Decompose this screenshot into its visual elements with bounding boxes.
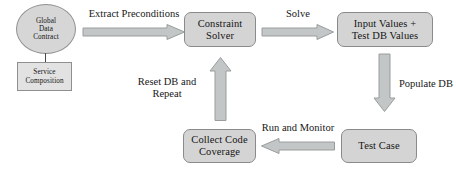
diagram-canvas: Global Data Contract Service Composition… (0, 0, 456, 173)
node-global-data-contract-label: Global Data Contract (33, 17, 59, 41)
edge-label-populate-db: Populate DB (399, 78, 456, 90)
edge-label-reset-db-and-repeat: Reset DB and Repeat (128, 76, 206, 100)
node-service-composition[interactable]: Service Composition (17, 62, 72, 91)
edge-label-run-and-monitor: Run and Monitor (258, 122, 338, 134)
edge-label-extract-preconditions: Extract Preconditions (72, 8, 196, 20)
node-service-composition-label: Service Composition (25, 68, 63, 84)
edge-label-solve: Solve (264, 8, 332, 20)
node-constraint-solver[interactable]: Constraint Solver (184, 12, 256, 47)
arrow-run-and-monitor (261, 138, 335, 154)
node-input-values[interactable]: Input Values + Test DB Values (337, 12, 433, 47)
node-collect-code-coverage-label: Collect Code Coverage (191, 134, 247, 158)
node-constraint-solver-label: Constraint Solver (198, 18, 243, 42)
node-global-data-contract[interactable]: Global Data Contract (16, 4, 76, 54)
node-input-values-label: Input Values + Test DB Values (352, 18, 418, 42)
arrow-reset-db-and-repeat (210, 57, 232, 121)
node-test-case-label: Test Case (358, 140, 399, 152)
arrow-populate-db (374, 54, 396, 112)
arrow-extract-preconditions (83, 24, 185, 40)
node-collect-code-coverage[interactable]: Collect Code Coverage (183, 129, 256, 163)
arrow-solve (262, 24, 334, 40)
node-test-case[interactable]: Test Case (341, 129, 417, 163)
